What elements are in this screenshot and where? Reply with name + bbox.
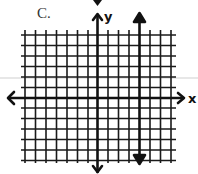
x-axis [8, 92, 184, 104]
x-axis-label: x [188, 91, 197, 106]
coordinate-graph: y x [0, 0, 198, 174]
arrowhead-fragment [93, 0, 102, 6]
y-axis [93, 14, 102, 172]
y-axis-label: y [104, 9, 113, 24]
